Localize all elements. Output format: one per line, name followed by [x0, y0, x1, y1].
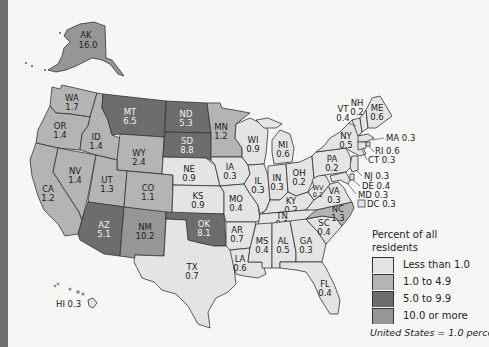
label-NH-value: 0.2: [350, 107, 364, 117]
label-ND-value: 5.3: [179, 118, 193, 128]
label-NV-value: 1.4: [68, 175, 82, 185]
label-GA-value: 0.3: [299, 245, 313, 255]
state-MA: MA 0.3: [358, 133, 415, 143]
legend-swatch: [372, 308, 394, 324]
state-AK: AK 16.0: [25, 22, 124, 76]
state-SD: SD 8.8: [163, 132, 211, 160]
label-NY-value: 0.5: [339, 140, 353, 150]
state-ME: ME 0.6: [366, 96, 392, 128]
label-VT-value: 0.4: [336, 113, 350, 123]
state-KS: KS 0.9: [172, 185, 224, 214]
label-VA-value: 0.3: [327, 195, 341, 205]
state-WY: WY 2.4: [117, 134, 164, 174]
label-PA-value: 0.2: [325, 163, 339, 173]
state-RI: RI 0.6: [366, 142, 400, 156]
label-MA: MA 0.3: [386, 133, 415, 143]
label-NM-value: 10.2: [136, 231, 155, 241]
label-WV-value: 0.2: [313, 191, 323, 199]
label-OH-value: 0.2: [292, 177, 306, 187]
label-MN-value: 1.2: [214, 131, 228, 141]
label-IA-value: 0.3: [223, 171, 237, 181]
label-SC-value: 0.4: [317, 227, 331, 237]
label-AK-abbr: AK: [80, 30, 92, 40]
state-NM: NM 10.2: [120, 207, 166, 258]
label-ID-value: 1.4: [89, 141, 103, 151]
legend-item-less-than-1: Less than 1.0: [372, 256, 489, 273]
label-IL-value: 0.3: [251, 185, 265, 195]
label-CO-value: 1.1: [141, 192, 155, 202]
state-FL: FL 0.4: [280, 262, 340, 314]
label-NJ: NJ 0.3: [364, 171, 389, 181]
legend-swatch: [372, 274, 394, 290]
legend-note: United States = 1.0 percent: [370, 327, 489, 338]
label-LA-value: 0.6: [233, 263, 247, 273]
legend-swatch: [372, 291, 394, 307]
label-WA-value: 1.7: [65, 102, 79, 112]
label-UT-value: 1.3: [100, 184, 114, 194]
label-OR-value: 1.4: [53, 130, 67, 140]
label-KS-value: 0.9: [191, 200, 205, 210]
label-MO-value: 0.4: [229, 203, 243, 213]
label-AL-value: 0.5: [276, 245, 290, 255]
label-MI-value: 0.6: [276, 149, 290, 159]
label-AR-value: 0.7: [230, 234, 244, 244]
legend-item-10-or-more: 10.0 or more: [372, 307, 489, 324]
state-ND: ND 5.3: [165, 101, 211, 133]
legend-item-5-to-9-9: 5.0 to 9.9: [372, 290, 489, 307]
label-AK-value: 16.0: [79, 40, 98, 50]
state-AZ: AZ 5.1: [78, 202, 124, 256]
label-CT: CT 0.3: [368, 155, 395, 165]
label-WY-value: 2.4: [132, 157, 146, 167]
map-legend: Percent of all residents Less than 1.0 1…: [372, 228, 489, 338]
state-DC: DC 0.3: [358, 199, 396, 209]
label-NE-value: 0.9: [182, 173, 196, 183]
state-MT: MT 6.5: [102, 94, 166, 137]
legend-title: Percent of all residents: [372, 228, 489, 254]
label-TX-value: 0.7: [185, 271, 199, 281]
state-HI: HI 0.3: [54, 283, 97, 309]
label-AZ-value: 5.1: [97, 229, 111, 239]
label-ME-value: 0.6: [370, 112, 384, 122]
label-WI-value: 0.9: [246, 144, 260, 154]
legend-swatch: [372, 257, 394, 273]
legend-item-1-to-4-9: 1.0 to 4.9: [372, 273, 489, 290]
label-NC-value: 1.3: [331, 213, 345, 223]
label-CA-value: 1.2: [41, 193, 55, 203]
label-DC: DC 0.3: [367, 199, 396, 209]
label-SD-value: 8.8: [180, 145, 194, 155]
label-OK-value: 8.1: [197, 228, 211, 238]
state-WA: WA 1.7: [50, 85, 97, 117]
label-HI: HI 0.3: [56, 299, 81, 309]
label-IN-value: 0.3: [270, 182, 284, 192]
label-MT-value: 6.5: [123, 116, 137, 126]
label-FL-value: 0.4: [318, 288, 332, 298]
label-MS-value: 0.4: [255, 245, 269, 255]
